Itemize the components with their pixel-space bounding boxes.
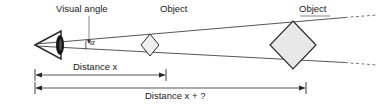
distance-x-plus-label: Distance x + ? (145, 91, 205, 101)
ray-lower-dashed-extension (345, 63, 377, 66)
object-far-diamond (270, 21, 316, 69)
dimension-near-arrow-right (159, 73, 166, 78)
dimension-far-arrow-right (299, 86, 306, 91)
dimension-near-arrow-left (35, 73, 42, 78)
ray-upper-dashed-extension (345, 15, 377, 18)
visual-angle-label: Visual angle (56, 4, 108, 14)
object-far-label: Object (299, 4, 326, 14)
eye-pupil-icon (59, 39, 62, 51)
angle-symbol-label: α (90, 38, 95, 47)
dimension-far-arrow-left (35, 86, 42, 91)
object-near-label: Object (160, 4, 187, 14)
distance-x-label: Distance x (73, 62, 117, 72)
visual-angle-diagram: Visual angle Object Object α Distance x … (0, 0, 380, 109)
